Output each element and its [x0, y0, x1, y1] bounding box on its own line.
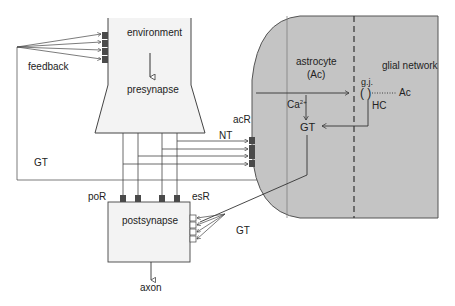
axon-label: axon [140, 283, 162, 293]
esr-label: esR [192, 192, 210, 202]
diagram-canvas: ( ) [0, 0, 455, 306]
nt-lines [123, 133, 248, 199]
gap-junction-bracket: ( ) [360, 86, 371, 100]
por-label: poR [88, 192, 106, 202]
esr-receptors [190, 215, 196, 242]
gap-junction-label: g.j. [361, 78, 373, 87]
nt-label: NT [219, 131, 232, 141]
gt-astrocyte-label: GT [300, 122, 315, 133]
feedback-label: feedback [28, 62, 69, 72]
acr-label: acR [233, 115, 251, 125]
gt-post-lines [197, 214, 225, 239]
acr-receptors [249, 137, 255, 167]
calcium-charge: 2+ [300, 99, 307, 105]
calcium-label: Ca2+ [287, 99, 307, 110]
astrocyte-abbr-label: (Ac) [307, 70, 325, 80]
hemichannel-label: HC [372, 101, 386, 111]
glial-network-label: glial network [382, 61, 438, 71]
postsynapse-receptors [120, 195, 180, 202]
feedback-receptors [102, 32, 108, 63]
astrocyte-label: astrocyte [296, 57, 337, 67]
postsynapse-box [108, 202, 190, 262]
calcium-symbol: Ca [287, 99, 300, 110]
postsynapse-label: postsynapse [122, 216, 178, 226]
astrocyte-body [252, 16, 438, 218]
gt-post-label: GT [236, 226, 250, 236]
environment-label: environment [127, 28, 182, 38]
ac-label: Ac [399, 88, 411, 98]
presynapse-label: presynapse [127, 85, 179, 95]
gt-feedback-label: GT [34, 158, 48, 168]
